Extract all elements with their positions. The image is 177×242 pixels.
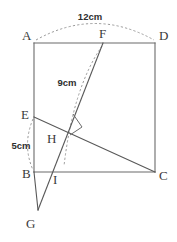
vertex-label-b: B — [22, 166, 31, 181]
arc-f-to-i-dashed — [64, 46, 102, 166]
vertex-label-g: G — [26, 216, 35, 231]
vertex-label-a: A — [22, 28, 32, 43]
vertex-label-h: H — [47, 131, 56, 146]
vertex-label-c: C — [159, 168, 168, 183]
vertex-label-d: D — [159, 28, 168, 43]
vertex-label-e: E — [21, 107, 29, 122]
dimension-label-9cm: 9cm — [57, 77, 76, 88]
dimension-label-12cm: 12cm — [78, 11, 102, 22]
vertex-label-i: I — [53, 172, 57, 187]
vertex-label-f: F — [99, 26, 106, 41]
segment-fg-line — [38, 43, 103, 210]
geometry-figure: A D B C E F G H I 12cm 9cm 5cm — [0, 0, 177, 242]
arc-a-to-d-dashed — [36, 24, 154, 41]
geometry-canvas: A D B C E F G H I 12cm 9cm 5cm — [0, 0, 177, 242]
segment-bg-line — [34, 172, 38, 210]
dimension-label-5cm: 5cm — [11, 140, 30, 151]
